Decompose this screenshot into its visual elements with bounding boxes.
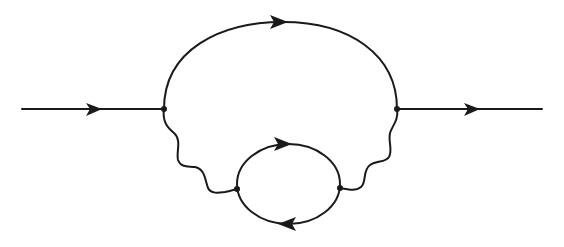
vertex-left	[161, 106, 167, 112]
incoming-fermion-line	[22, 103, 164, 116]
fermion-loop	[237, 137, 340, 231]
vertex-loop-left	[234, 186, 240, 192]
left-photon-line	[164, 109, 237, 193]
vertex-loop-right	[337, 185, 343, 191]
feynman-diagram	[0, 0, 564, 247]
outgoing-fermion-line	[397, 103, 542, 116]
internal-fermion-arc	[164, 15, 397, 109]
right-photon-line	[340, 109, 397, 190]
vertex-right	[394, 106, 400, 112]
